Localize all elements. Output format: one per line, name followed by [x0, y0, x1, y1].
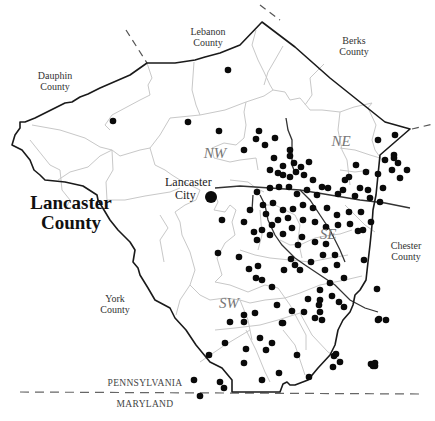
data-point — [310, 177, 317, 184]
map-title-line1: Lancaster — [16, 193, 126, 213]
data-point — [298, 164, 305, 171]
data-point — [293, 169, 300, 176]
data-point — [374, 286, 381, 293]
data-point — [376, 316, 383, 323]
data-point — [267, 167, 274, 174]
data-point — [358, 209, 365, 216]
data-point — [257, 335, 264, 342]
data-point — [337, 359, 344, 366]
data-point — [335, 191, 342, 198]
data-point — [299, 234, 306, 241]
data-point — [324, 205, 331, 212]
data-point — [280, 231, 287, 238]
data-point — [312, 219, 319, 226]
data-point — [327, 280, 334, 287]
data-point — [219, 217, 226, 224]
label-berks-county: Berks County — [327, 35, 381, 57]
data-point — [333, 351, 340, 358]
data-point — [314, 192, 321, 199]
data-point — [280, 163, 287, 170]
data-point — [287, 147, 294, 154]
state-line-pa-md — [20, 392, 420, 394]
data-point — [310, 205, 317, 212]
label-dauphin-county: Dauphin County — [24, 70, 86, 92]
data-point — [255, 263, 262, 270]
data-point — [253, 275, 260, 282]
data-point — [291, 160, 298, 167]
data-point — [251, 229, 258, 236]
data-point — [341, 275, 348, 282]
data-point — [110, 118, 117, 125]
data-point — [222, 340, 229, 347]
label-chester-county: Chester County — [378, 240, 434, 262]
data-point — [334, 262, 341, 269]
data-point — [357, 185, 364, 192]
data-point — [280, 320, 287, 327]
data-point — [377, 199, 384, 206]
label-pennsylvania: PENNSYLVANIA — [90, 378, 200, 388]
data-point — [305, 296, 312, 303]
data-point — [267, 232, 274, 239]
data-point — [241, 360, 248, 367]
data-point — [300, 202, 307, 209]
data-point — [319, 184, 326, 191]
data-point — [294, 191, 301, 198]
data-point — [301, 172, 308, 179]
data-point — [375, 171, 382, 178]
data-point — [395, 160, 402, 167]
data-point — [281, 267, 288, 274]
data-point — [271, 155, 278, 162]
data-point — [252, 310, 259, 317]
data-point — [370, 363, 377, 370]
data-point — [253, 136, 260, 143]
data-point — [383, 317, 390, 324]
data-point — [347, 221, 354, 228]
data-point — [227, 319, 234, 326]
data-point — [280, 207, 287, 214]
data-point — [375, 137, 382, 144]
data-point — [289, 225, 296, 232]
data-point — [300, 217, 307, 224]
data-point — [334, 212, 341, 219]
data-point — [216, 128, 223, 135]
data-point — [260, 202, 267, 209]
label-dauphin-line1: Dauphin — [24, 70, 86, 81]
label-city-line2: City — [165, 189, 225, 202]
data-point — [352, 193, 359, 200]
data-point — [286, 184, 293, 191]
data-point — [317, 287, 324, 294]
data-point — [342, 177, 349, 184]
label-lebanon-county: Lebanon County — [176, 26, 240, 48]
data-point — [332, 252, 339, 259]
label-york-county: York County — [88, 293, 142, 315]
data-point — [367, 195, 374, 202]
data-point — [361, 257, 368, 264]
data-point — [263, 211, 270, 218]
data-points — [110, 67, 411, 400]
data-point — [392, 132, 399, 139]
neighbor-border-stubs — [126, 5, 433, 129]
data-point — [225, 67, 232, 74]
region-label-ne: NE — [326, 133, 356, 150]
data-point — [269, 284, 276, 291]
data-point — [270, 200, 277, 207]
label-berks-line2: County — [327, 46, 381, 57]
data-point — [287, 174, 294, 181]
data-point — [269, 340, 276, 347]
label-berks-line1: Berks — [327, 35, 381, 46]
data-point — [267, 185, 274, 192]
data-point — [308, 259, 315, 266]
data-point — [241, 312, 248, 319]
data-point — [254, 237, 261, 244]
data-point — [185, 119, 192, 126]
data-point — [295, 242, 302, 249]
data-point — [346, 209, 353, 216]
data-point — [269, 222, 276, 229]
data-point — [294, 352, 301, 359]
data-point — [259, 377, 266, 384]
data-point — [301, 309, 308, 316]
map-title: Lancaster County — [16, 193, 126, 233]
data-point — [275, 217, 282, 224]
data-point — [206, 352, 213, 359]
data-point — [274, 302, 281, 309]
